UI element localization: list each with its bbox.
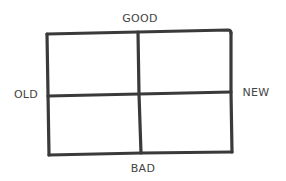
label-left-old: OLD bbox=[14, 88, 38, 101]
label-top-good: GOOD bbox=[122, 12, 158, 25]
horizontal-divider bbox=[48, 92, 231, 96]
label-bottom-bad: BAD bbox=[131, 162, 155, 175]
label-right-new: NEW bbox=[243, 86, 270, 99]
quadrant-diagram: GOOD BAD OLD NEW bbox=[0, 0, 286, 181]
